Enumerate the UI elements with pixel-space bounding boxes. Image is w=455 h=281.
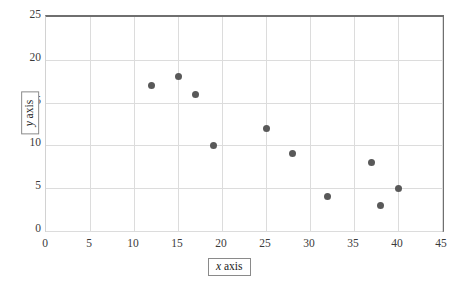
gridline-vertical — [442, 17, 443, 231]
gridline-vertical — [90, 17, 91, 231]
y-axis-tick-label: 25 — [3, 9, 41, 21]
gridline-vertical — [310, 17, 311, 231]
x-axis-tick-labels: 051015202530354045 — [45, 238, 444, 254]
x-axis-tick-label: 10 — [113, 238, 153, 250]
data-point — [368, 159, 375, 166]
x-axis-tick-label: 0 — [25, 238, 65, 250]
data-point — [192, 91, 199, 98]
data-point — [263, 125, 270, 132]
x-axis-tick-label: 40 — [377, 238, 417, 250]
data-point — [148, 82, 155, 89]
y-axis-tick-label: 0 — [3, 223, 41, 235]
gridline-horizontal — [46, 103, 442, 104]
y-axis-title-word: axis — [23, 100, 35, 121]
scatter-chart: 0510152025 051015202530354045 x axis y a… — [0, 0, 455, 281]
x-axis-tick-label: 20 — [201, 238, 241, 250]
y-axis-tick-label: 5 — [3, 180, 41, 192]
plot-area — [45, 15, 444, 232]
gridline-horizontal — [46, 231, 442, 232]
gridline-vertical — [134, 17, 135, 231]
gridline-vertical — [222, 17, 223, 231]
gridline-horizontal — [46, 60, 442, 61]
x-axis-tick-label: 45 — [421, 238, 455, 250]
data-point — [395, 185, 402, 192]
gridline-vertical — [178, 17, 179, 231]
x-axis-tick-label: 5 — [69, 238, 109, 250]
y-axis-tick-label: 10 — [3, 137, 41, 149]
gridline-vertical — [354, 17, 355, 231]
data-point — [377, 202, 384, 209]
y-axis-title-variable: y — [23, 121, 35, 126]
x-axis-tick-label: 15 — [157, 238, 197, 250]
data-point — [289, 150, 296, 157]
x-axis-tick-label: 30 — [289, 238, 329, 250]
y-axis-tick-label: 20 — [3, 52, 41, 64]
x-axis-title: x axis — [208, 258, 251, 276]
y-axis-title: y axis — [21, 92, 39, 135]
data-point — [324, 193, 331, 200]
gridline-horizontal — [46, 188, 442, 189]
x-axis-tick-label: 25 — [245, 238, 285, 250]
x-axis-tick-label: 35 — [333, 238, 373, 250]
data-point — [210, 142, 217, 149]
gridline-vertical — [398, 17, 399, 231]
x-axis-title-word: axis — [221, 260, 242, 272]
data-point — [175, 73, 182, 80]
gridline-horizontal — [46, 145, 442, 146]
